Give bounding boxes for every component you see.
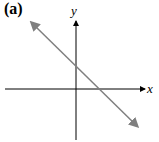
- x-axis-label: x: [147, 81, 153, 97]
- plotted-line: [35, 26, 137, 126]
- coordinate-plot: [0, 0, 159, 142]
- y-axis-label: y: [71, 3, 77, 19]
